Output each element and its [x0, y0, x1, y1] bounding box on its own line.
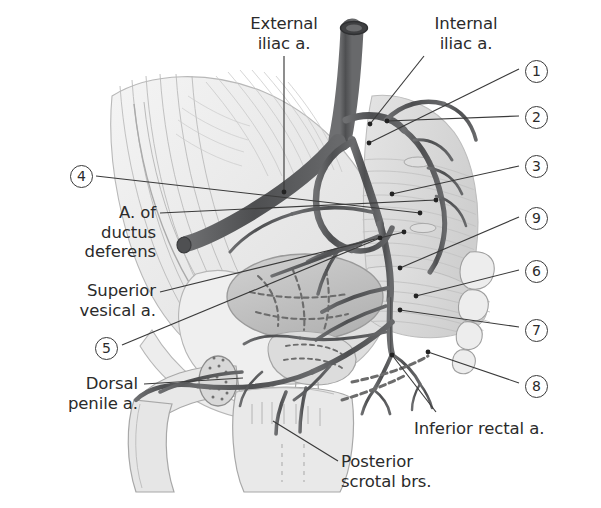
label-posterior-scrotal: Posterior scrotal brs. — [341, 452, 511, 491]
leader-external-iliac-endpoint — [282, 190, 287, 195]
leader-n5-endpoint — [378, 236, 383, 241]
callout-number-2: 2 — [525, 106, 548, 129]
label-superior-vesical: Superior vesical a. — [36, 281, 156, 320]
callout-number-1: 1 — [525, 60, 548, 83]
callout-number-4: 4 — [70, 165, 93, 188]
label-inferior-rectal: Inferior rectal a. — [414, 419, 594, 439]
leader-n2-endpoint — [385, 119, 390, 124]
leader-n8-endpoint — [426, 350, 431, 355]
callout-number-6: 6 — [525, 260, 548, 283]
leader-superior-vesical-endpoint — [402, 230, 407, 235]
leader-n6-endpoint — [414, 294, 419, 299]
callout-number-3: 3 — [525, 155, 548, 178]
leader-n1-endpoint — [367, 141, 372, 146]
leader-n9-endpoint — [398, 266, 403, 271]
callout-number-8: 8 — [525, 375, 548, 398]
callout-number-7: 7 — [525, 319, 548, 342]
leader-inferior-rectal-endpoint — [390, 353, 395, 358]
leader-n4-endpoint — [418, 211, 423, 216]
leader-internal-iliac-endpoint — [368, 122, 373, 127]
label-dorsal-penile: Dorsal penile a. — [18, 374, 138, 413]
callout-number-9: 9 — [525, 207, 548, 230]
leader-n3-endpoint — [390, 192, 395, 197]
leader-ductus-endpoint — [434, 198, 439, 203]
anatomy-figure: External iliac a.Internal iliac a.A. of … — [0, 0, 601, 508]
label-a-ductus-deferens: A. of ductus deferens — [36, 203, 156, 262]
label-internal-iliac: Internal iliac a. — [414, 14, 518, 53]
leader-n7-endpoint — [398, 308, 403, 313]
label-external-iliac: External iliac a. — [228, 14, 340, 53]
callout-number-5: 5 — [95, 337, 118, 360]
